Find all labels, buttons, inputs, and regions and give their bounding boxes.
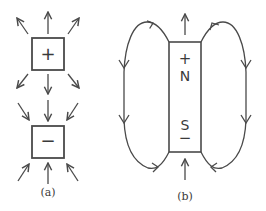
right-field-loop (201, 22, 251, 172)
panel-b-label: (b) (177, 190, 193, 203)
panel-b (119, 14, 251, 180)
left-field-loop (119, 19, 169, 172)
field-lines-diagram: + − (a) + N S − (b) (0, 0, 266, 211)
panel-a (17, 12, 79, 184)
north-pole-label: N (180, 68, 190, 84)
panel-a-label: (a) (40, 186, 55, 199)
north-plus-sign: + (179, 50, 192, 68)
negative-sign: − (40, 130, 55, 151)
south-minus-sign: − (179, 129, 192, 147)
positive-sign: + (40, 43, 55, 64)
